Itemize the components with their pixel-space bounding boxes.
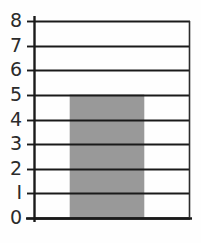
y-tick-label-4: 4 (10, 108, 22, 130)
bar-chart: 0I2345678 (0, 0, 201, 243)
y-tick-label-5: 5 (10, 83, 22, 105)
y-tick-label-6: 6 (10, 58, 22, 80)
y-tick-label-1: I (16, 181, 22, 203)
y-tick-label-3: 3 (10, 132, 22, 154)
y-tick-label-2: 2 (10, 157, 22, 179)
bar-series-0 (70, 95, 144, 218)
y-axis-tick-labels: 0I2345678 (10, 9, 22, 228)
tickmark-group (27, 22, 34, 219)
y-tick-label-8: 8 (10, 9, 22, 31)
y-tick-label-7: 7 (10, 34, 22, 56)
chart-canvas: 0I2345678 (0, 0, 201, 243)
y-tick-label-0: 0 (10, 206, 22, 228)
